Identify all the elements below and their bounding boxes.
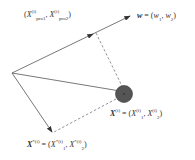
projection-arrow [12, 34, 93, 73]
point-xstar-label: X*(i) = (X*(i)1, X*(i)2) [27, 141, 87, 149]
point-x-center-dot [123, 93, 125, 95]
x-vector-line [12, 73, 120, 91]
dashed-to-projection [96, 33, 122, 86]
diagram-canvas [0, 0, 195, 160]
dashed-to-xstar [54, 99, 116, 132]
point-x-label: X(i) = (X(i)1, X(i)2) [110, 110, 162, 118]
xstar-vector-arrow [12, 73, 52, 132]
w-label: w = (w1, w2) [137, 12, 176, 20]
projection-label: (X(i)pro1, X(i)pro2) [24, 11, 71, 19]
